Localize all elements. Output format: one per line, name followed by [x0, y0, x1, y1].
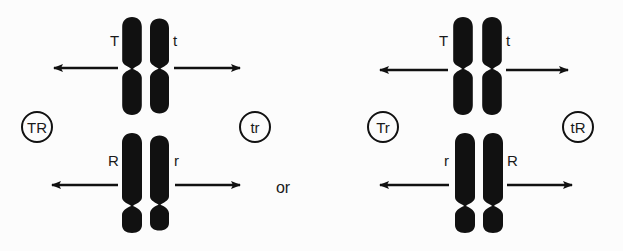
allele-label: t: [506, 32, 511, 49]
allele-label: t: [173, 32, 178, 49]
allele-label: R: [507, 152, 518, 169]
chromosome-icon: [122, 133, 142, 233]
allele-label: r: [444, 152, 449, 169]
gamete-TR: TR: [22, 112, 52, 142]
gamete-tR: tR: [563, 112, 593, 142]
gamete-label: tr: [250, 119, 259, 136]
allele-label: r: [174, 152, 179, 169]
diagram-canvas: T t TR tr R r or T: [0, 0, 623, 251]
gamete-tr: tr: [240, 112, 270, 142]
chromosome-icon: [150, 19, 169, 114]
gamete-label: TR: [27, 119, 47, 136]
left-panel: T t TR tr R r: [22, 17, 270, 233]
allele-label: T: [110, 32, 119, 49]
chromosome-icon: [483, 133, 503, 233]
gamete-Tr: Tr: [368, 112, 398, 142]
chromosome-icon: [122, 17, 142, 115]
allele-label: T: [439, 32, 448, 49]
or-separator: or: [276, 179, 291, 196]
chromosome-icon: [150, 136, 169, 231]
chromosome-icon: [455, 133, 475, 233]
chromosome-pair-bottom-left: R r: [52, 133, 240, 233]
chromosome-pair-bottom-right: r R: [380, 133, 572, 233]
gamete-label: Tr: [376, 119, 390, 136]
chromosome-icon: [453, 17, 473, 115]
chromosome-pair-top-left: T t: [54, 17, 240, 115]
right-panel: T t Tr tR r R: [368, 17, 593, 233]
chromosome-pair-top-right: T t: [380, 17, 568, 115]
gamete-label: tR: [571, 119, 586, 136]
allele-label: R: [108, 152, 119, 169]
chromosome-icon: [482, 17, 502, 115]
